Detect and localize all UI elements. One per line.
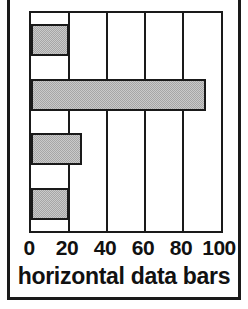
figure-frame-right-rule <box>238 0 241 300</box>
chart-figure: 020406080100 horizontal data bars <box>0 0 248 309</box>
bar-2 <box>31 79 206 111</box>
x-tick-label-0: 0 <box>23 236 34 260</box>
figure-frame-left-rule <box>7 0 10 300</box>
plot-area <box>29 11 223 233</box>
x-axis-tick-labels: 020406080100 <box>29 236 223 262</box>
chart-title: horizontal data bars <box>10 262 238 290</box>
bars-layer <box>31 13 221 231</box>
bar-3 <box>31 133 82 165</box>
x-tick-label-20: 20 <box>56 236 78 260</box>
bar-4 <box>31 188 69 220</box>
x-tick-label-80: 80 <box>170 236 192 260</box>
x-tick-label-60: 60 <box>132 236 154 260</box>
bar-1 <box>31 24 69 56</box>
x-tick-label-40: 40 <box>94 236 116 260</box>
figure-frame-bottom-rule <box>7 297 241 300</box>
x-tick-label-100: 100 <box>202 236 236 260</box>
